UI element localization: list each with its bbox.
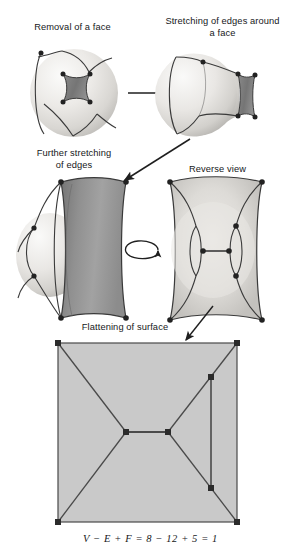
- sphere-further-stretched: [16, 178, 129, 321]
- caption-removal-of-a-face: Removal of a face: [10, 22, 135, 34]
- euler-formula-figure: Removal of a face Stretching of edges ar…: [0, 0, 301, 559]
- sphere-stretched-edges: [155, 53, 258, 136]
- caption-reverse-view: Reverse view: [160, 164, 275, 176]
- removed-face-patch: [63, 74, 90, 102]
- flattened-planar-graph: [55, 340, 240, 525]
- arrow-rotate-step3-to-step4: [126, 241, 159, 259]
- caption-flattening-of-surface: Flattening of surface: [50, 322, 200, 334]
- reverse-view-surface: [170, 177, 262, 320]
- further-stretched-face: [61, 178, 126, 319]
- diagram-graphics-layer: [0, 0, 301, 559]
- stretched-face-patch: [238, 74, 255, 117]
- sphere-reverse-view: [167, 177, 265, 323]
- sphere-with-removed-face: [30, 49, 118, 137]
- caption-stretching-of-edges: Stretching of edges around a face: [150, 16, 295, 39]
- caption-further-stretching: Further stretching of edges: [14, 148, 134, 171]
- euler-formula-text: V − E + F = 8 − 12 + 5 = 1: [0, 533, 301, 544]
